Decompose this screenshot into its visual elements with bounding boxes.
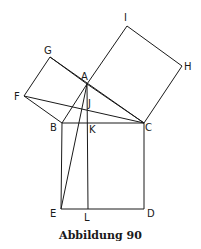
label-B: B bbox=[50, 122, 57, 133]
label-L: L bbox=[84, 212, 90, 223]
segment-HC bbox=[144, 66, 182, 123]
label-G: G bbox=[44, 45, 52, 56]
label-D: D bbox=[147, 208, 155, 219]
vertex-labels: IGHAFJBKCELD bbox=[14, 12, 192, 223]
pythagoras-diagram: IGHAFJBKCELD bbox=[0, 0, 201, 249]
label-K: K bbox=[89, 124, 96, 135]
label-F: F bbox=[14, 91, 20, 102]
segment-EB bbox=[61, 123, 62, 209]
figure-caption: Abbildung 90 bbox=[0, 229, 201, 242]
label-E: E bbox=[50, 208, 56, 219]
label-C: C bbox=[145, 122, 152, 133]
label-A: A bbox=[81, 71, 88, 82]
segment-GC bbox=[50, 57, 144, 123]
segment-IH bbox=[127, 26, 182, 66]
label-J: J bbox=[87, 98, 91, 109]
segment-FG bbox=[24, 57, 50, 96]
label-I: I bbox=[124, 12, 127, 23]
segment-AE bbox=[61, 84, 87, 209]
label-H: H bbox=[184, 61, 192, 72]
segment-AI bbox=[87, 26, 127, 84]
